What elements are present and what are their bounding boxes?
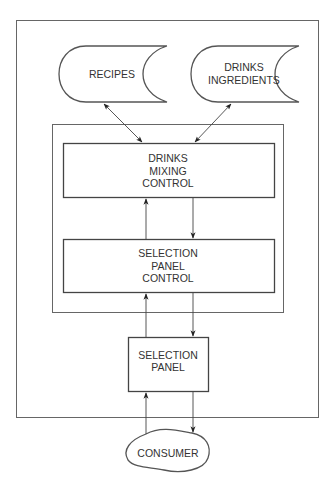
recipes-mixing-bidirectional-arrow <box>104 104 142 142</box>
drinks-ingredients-label-line2: INGREDIENTS <box>208 74 280 86</box>
drinks-ingredients-label-line1: DRINKS <box>224 61 264 73</box>
drinks-mixing-control-label-line3: CONTROL <box>142 177 193 189</box>
selection-panel-label-line2: PANEL <box>151 361 185 373</box>
selection-panel-control-block[interactable]: SELECTION PANEL CONTROL <box>64 240 275 293</box>
recipes-label: RECIPES <box>89 68 135 80</box>
drinks-mixing-control-label-line1: DRINKS <box>148 152 188 164</box>
selection-panel-control-label-line3: CONTROL <box>142 272 193 284</box>
drinks-ingredients-data-store[interactable]: DRINKS INGREDIENTS <box>191 46 299 102</box>
drinks-mixing-control-block[interactable]: DRINKS MIXING CONTROL <box>64 144 275 198</box>
ingredients-mixing-bidirectional-arrow <box>195 104 231 142</box>
selection-panel-control-label-line2: PANEL <box>151 260 185 272</box>
consumer-label: CONSUMER <box>137 447 199 459</box>
recipes-data-store[interactable]: RECIPES <box>59 46 167 102</box>
system-block-diagram: RECIPES DRINKS INGREDIENTS DRINKS MIXING… <box>0 0 335 489</box>
consumer-cloud[interactable]: CONSUMER <box>126 429 209 471</box>
drinks-mixing-control-label-line2: MIXING <box>149 165 186 177</box>
selection-panel-block[interactable]: SELECTION PANEL <box>129 338 209 392</box>
selection-panel-control-label-line1: SELECTION <box>138 247 198 259</box>
selection-panel-label-line1: SELECTION <box>138 349 198 361</box>
